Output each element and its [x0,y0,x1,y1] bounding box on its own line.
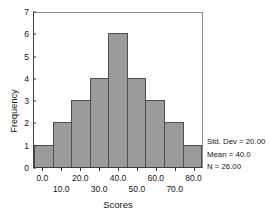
y-tick-mark [33,12,36,13]
n-text: N = 26.00 [207,161,273,174]
x-tick-label: 80.0 [185,174,202,183]
y-tick-mark [33,123,36,124]
mean-text: Mean = 40.0 [207,149,273,162]
x-tick-label: 60.0 [147,174,164,183]
x-tick-label: 40.0 [110,174,127,183]
x-tick-label: 0.0 [37,174,49,183]
y-tick-label: 6 [24,30,29,39]
y-tick-label: 7 [24,8,29,17]
histogram-chart: Frequency 76543210 0.010.020.030.040.050… [0,0,273,219]
y-tick-label: 0 [24,164,29,173]
x-tick-mark [156,168,157,171]
histogram-bar [34,145,54,167]
y-axis-labels: 76543210 [14,12,29,168]
y-tick-mark [33,34,36,35]
bar-series [34,13,202,167]
x-tick-mark [61,168,62,171]
x-tick-mark [137,168,138,171]
y-tick-mark [33,168,36,169]
y-tick-mark [33,78,36,79]
x-tick-label: 10.0 [53,185,70,194]
x-tick-mark [42,168,43,171]
histogram-bar [145,100,165,167]
histogram-bar [53,122,73,167]
x-tick-mark [194,168,195,171]
x-tick-label: 70.0 [166,185,183,194]
y-tick-label: 1 [24,141,29,150]
x-tick-label: 50.0 [129,185,146,194]
x-tick-mark [99,168,100,171]
plot-area [33,12,203,168]
statistics-annotation: Std. Dev = 20.00 Mean = 40.0 N = 26.00 [207,136,273,174]
y-tick-label: 5 [24,52,29,61]
x-axis-labels: 0.010.020.030.040.050.060.070.080.0 [33,172,203,198]
x-axis-title: Scores [33,199,203,210]
histogram-bar [127,78,147,167]
x-tick-mark [175,168,176,171]
y-tick-label: 4 [24,75,29,84]
y-tick-label: 3 [24,97,29,106]
histogram-bar [183,145,203,167]
histogram-bar [71,100,91,167]
histogram-bar [90,78,110,167]
x-tick-mark [118,168,119,171]
y-tick-label: 2 [24,119,29,128]
histogram-bar [164,122,184,167]
std-dev-text: Std. Dev = 20.00 [207,136,273,149]
y-tick-mark [33,56,36,57]
x-tick-label: 30.0 [91,185,108,194]
x-tick-label: 20.0 [72,174,89,183]
histogram-bar [108,33,128,167]
y-tick-mark [33,101,36,102]
x-tick-mark [80,168,81,171]
y-tick-mark [33,145,36,146]
